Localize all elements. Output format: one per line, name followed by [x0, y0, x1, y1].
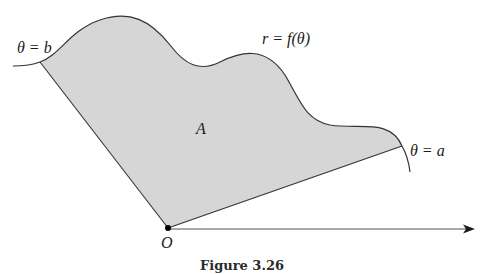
label-theta-b: θ = b: [17, 39, 52, 56]
label-curve: r = f(θ): [262, 30, 310, 48]
label-origin: O: [161, 234, 173, 251]
figure-caption: Figure 3.26: [200, 258, 284, 273]
origin-point: [165, 225, 171, 231]
label-region-a: A: [195, 120, 206, 137]
label-theta-a: θ = a: [410, 142, 445, 159]
polar-area-diagram: θ = b r = f(θ) A θ = a O Figure 3.26: [0, 0, 483, 274]
region-a-fill: [40, 16, 402, 228]
